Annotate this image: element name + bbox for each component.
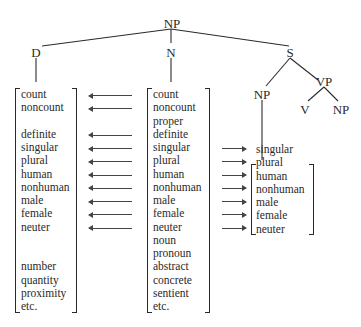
edge-np-s <box>171 29 289 46</box>
edge-s-vp <box>290 58 318 80</box>
feature-item: neuter <box>153 221 182 234</box>
feature-item: nonhuman <box>256 183 305 196</box>
feature-item: noun <box>153 234 176 247</box>
feature-item: singular <box>153 141 190 154</box>
feature-item: proximity <box>21 287 66 300</box>
feature-item: definite <box>21 128 56 141</box>
left-arrow-icon <box>89 161 132 162</box>
node-root-np: NP <box>164 17 181 30</box>
d-features-left-bracket <box>15 88 20 313</box>
edge-s-np <box>266 58 290 86</box>
feature-tree-diagram: NP D N S NP VP V NP countnoncountdefinit… <box>0 0 361 327</box>
edge-vp-v <box>308 87 324 101</box>
feature-item: etc. <box>21 300 37 313</box>
feature-item: human <box>256 170 287 183</box>
feature-item: nonhuman <box>153 181 202 194</box>
feature-item: proper <box>153 115 183 128</box>
np-features-right-bracket <box>309 164 314 235</box>
feature-item: neuter <box>256 223 285 236</box>
right-arrow-icon <box>222 214 246 215</box>
edge-vp-np <box>324 87 338 101</box>
left-arrow-icon <box>89 214 132 215</box>
node-object-np: NP <box>333 103 350 116</box>
feature-item: neuter <box>21 221 50 234</box>
right-arrow-icon <box>222 201 246 202</box>
feature-item: male <box>21 194 43 207</box>
feature-item: human <box>21 168 52 181</box>
left-arrow-icon <box>89 148 132 149</box>
feature-item: plural <box>256 156 283 169</box>
feature-item: plural <box>153 154 180 167</box>
left-arrow-icon <box>89 228 132 229</box>
node-d: D <box>31 46 40 59</box>
right-arrow-icon <box>222 161 246 162</box>
feature-item: etc. <box>153 300 169 313</box>
feature-item: singular <box>21 141 58 154</box>
node-s: S <box>286 46 293 59</box>
node-n: N <box>166 46 175 59</box>
feature-item: count <box>153 88 179 101</box>
n-features-right-bracket <box>205 88 210 313</box>
feature-item: count <box>21 88 47 101</box>
feature-item: human <box>153 168 184 181</box>
feature-item: male <box>153 194 175 207</box>
feature-item: nonhuman <box>21 181 70 194</box>
feature-item: concrete <box>153 274 192 287</box>
feature-item: number <box>21 260 56 273</box>
feature-item: quantity <box>21 274 59 287</box>
feature-item: female <box>256 209 287 222</box>
feature-item: plural <box>21 154 48 167</box>
left-arrow-icon <box>89 188 132 189</box>
node-subject-np: NP <box>254 88 271 101</box>
node-vp: VP <box>316 75 333 88</box>
left-arrow-icon <box>89 135 132 136</box>
feature-item: noncount <box>21 101 64 114</box>
left-arrow-icon <box>89 201 132 202</box>
left-arrow-icon <box>89 175 132 176</box>
right-arrow-icon <box>222 175 246 176</box>
n-features-left-bracket <box>147 88 152 313</box>
d-features-right-bracket <box>72 88 77 313</box>
right-arrow-icon <box>222 228 246 229</box>
right-arrow-icon <box>222 148 246 149</box>
feature-item: noncount <box>153 101 196 114</box>
feature-item: female <box>153 207 184 220</box>
feature-item: sentient <box>153 287 189 300</box>
feature-item: male <box>256 196 278 209</box>
left-arrow-icon <box>89 108 132 109</box>
left-arrow-icon <box>89 95 132 96</box>
feature-item: female <box>21 207 52 220</box>
node-v: V <box>300 103 309 116</box>
feature-item: singular <box>256 143 293 156</box>
edge-np-d <box>42 29 171 46</box>
feature-item: abstract <box>153 260 189 273</box>
right-arrow-icon <box>222 188 246 189</box>
feature-item: pronoun <box>153 247 191 260</box>
feature-item: definite <box>153 128 188 141</box>
